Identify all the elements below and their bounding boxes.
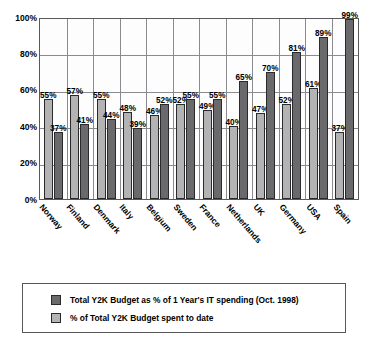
- x-axis-label: Italy: [118, 202, 137, 221]
- x-axis-label: UK: [251, 202, 266, 218]
- x-axis-label: Finland: [64, 202, 91, 231]
- bar-spent: 52%: [176, 104, 185, 199]
- bar-total: 70%: [266, 72, 275, 199]
- plot-area: 55%37%57%41%55%44%48%39%46%52%52%55%49%5…: [39, 18, 359, 200]
- bar-value-label: 89%: [315, 29, 331, 38]
- bar-total: 39%: [133, 128, 142, 199]
- bar-value-label: 55%: [209, 91, 225, 100]
- x-label-cell: Norway: [39, 200, 66, 272]
- bar-value-label: 39%: [130, 120, 146, 129]
- y-tick-label: 80%: [9, 50, 37, 59]
- bar-value-label: 48%: [120, 104, 136, 113]
- x-label-cell: USA: [306, 200, 333, 272]
- bar-total: 41%: [80, 124, 89, 199]
- bar-group: 48%39%: [120, 19, 147, 199]
- x-axis-label: France: [198, 202, 224, 229]
- bar-value-label: 70%: [262, 64, 278, 73]
- bar-value-label: 55%: [40, 91, 56, 100]
- bar-total: 55%: [186, 99, 195, 199]
- legend-swatch-spent-to-date: [51, 313, 61, 323]
- bar-spent: 47%: [256, 113, 265, 199]
- bar-group: 47%70%: [252, 19, 279, 199]
- x-label-cell: France: [199, 200, 226, 272]
- bar-value-label: 52%: [156, 96, 172, 105]
- y-tick-label: 100%: [9, 14, 37, 23]
- bar-total: 99%: [345, 19, 354, 199]
- bar-total: 81%: [292, 52, 301, 199]
- bar-group: 55%37%: [40, 19, 67, 199]
- y-tick-label: 40%: [9, 123, 37, 132]
- x-axis-label: Sweden: [171, 202, 199, 232]
- bar-spent: 40%: [229, 126, 238, 199]
- x-label-cell: Denmark: [92, 200, 119, 272]
- x-axis-label: Belgium: [144, 202, 173, 234]
- bar-spent: 37%: [335, 132, 344, 199]
- x-label-cell: UK: [252, 200, 279, 272]
- x-label-cell: Belgium: [146, 200, 173, 272]
- x-label-cell: Italy: [119, 200, 146, 272]
- x-axis-label: USA: [304, 202, 323, 222]
- bar-spent: 49%: [203, 110, 212, 199]
- bar-total: 37%: [54, 132, 63, 199]
- bar-spent: 55%: [44, 99, 53, 199]
- bar-value-label: 41%: [77, 116, 93, 125]
- x-axis-label: Spain: [331, 202, 354, 226]
- bar-value-label: 99%: [342, 11, 358, 20]
- chart-legend: Total Y2K Budget as % of 1 Year's IT spe…: [22, 283, 346, 333]
- y-tick-label: 20%: [9, 159, 37, 168]
- bar-value-label: 81%: [289, 44, 305, 53]
- bar-spent: 57%: [70, 95, 79, 199]
- legend-item-spent-to-date: % of Total Y2K Budget spent to date: [51, 313, 213, 323]
- bar-total: 44%: [107, 119, 116, 199]
- x-label-cell: Spain: [332, 200, 359, 272]
- bar-groups-layer: 55%37%57%41%55%44%48%39%46%52%52%55%49%5…: [40, 19, 358, 199]
- y2k-budget-bar-chart: Y2K as a Percentage of Annual IT Spendin…: [0, 0, 367, 339]
- bar-spent: 52%: [282, 104, 291, 199]
- bar-value-label: 44%: [103, 111, 119, 120]
- y-tick-label: 60%: [9, 86, 37, 95]
- x-label-cell: Finland: [66, 200, 93, 272]
- bar-spent: 61%: [309, 88, 318, 199]
- bar-group: 46%52%: [146, 19, 173, 199]
- bar-group: 49%55%: [199, 19, 226, 199]
- x-axis-category-labels: NorwayFinlandDenmarkItalyBelgiumSwedenFr…: [39, 200, 359, 272]
- bar-group: 37%99%: [332, 19, 359, 199]
- bar-value-label: 57%: [67, 87, 83, 96]
- bar-value-label: 65%: [236, 73, 252, 82]
- legend-label-total-budget: Total Y2K Budget as % of 1 Year's IT spe…: [70, 295, 299, 305]
- x-axis-label: Norway: [38, 202, 65, 231]
- bar-group: 55%44%: [93, 19, 120, 199]
- bar-value-label: 55%: [93, 91, 109, 100]
- bar-value-label: 55%: [183, 91, 199, 100]
- bar-total: 89%: [319, 37, 328, 199]
- x-label-cell: Germany: [279, 200, 306, 272]
- legend-item-total-budget: Total Y2K Budget as % of 1 Year's IT spe…: [51, 295, 299, 305]
- legend-swatch-total-budget: [51, 295, 61, 305]
- y-tick-label: 0%: [9, 196, 37, 205]
- bar-group: 61%89%: [305, 19, 332, 199]
- legend-label-spent-to-date: % of Total Y2K Budget spent to date: [70, 313, 213, 323]
- bar-group: 40%65%: [226, 19, 253, 199]
- bar-value-label: 37%: [50, 124, 66, 133]
- bar-total: 65%: [239, 81, 248, 199]
- bar-total: 52%: [160, 104, 169, 199]
- x-label-cell: Sweden: [172, 200, 199, 272]
- bar-total: 55%: [213, 99, 222, 199]
- bar-group: 52%55%: [173, 19, 200, 199]
- bar-group: 52%81%: [279, 19, 306, 199]
- bar-spent: 46%: [150, 115, 159, 199]
- x-label-cell: Netherlands: [226, 200, 253, 272]
- bar-group: 57%41%: [67, 19, 94, 199]
